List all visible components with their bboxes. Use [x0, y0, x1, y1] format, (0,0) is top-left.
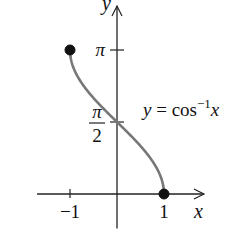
y-axis-label: y: [100, 0, 111, 15]
function-label-eq: = cos: [151, 99, 197, 120]
function-label-arg: x: [210, 99, 220, 120]
x-tick-label: −1: [60, 201, 80, 222]
function-label-lhs: y: [141, 99, 152, 120]
x-tick-label: 1: [159, 201, 169, 222]
function-label-sup: −1: [197, 96, 211, 111]
endpoint-dot: [65, 45, 75, 55]
arccos-plot: −11 ππ2 x y y = cos−1x: [0, 0, 247, 238]
function-label: y = cos−1x: [141, 96, 220, 120]
chart: −11 ππ2 x y y = cos−1x: [0, 0, 247, 238]
y-tick-label: π: [95, 39, 105, 60]
endpoint-dot: [159, 189, 169, 199]
y-tick-label-denominator: 2: [92, 125, 102, 146]
x-axis-label: x: [193, 200, 203, 222]
